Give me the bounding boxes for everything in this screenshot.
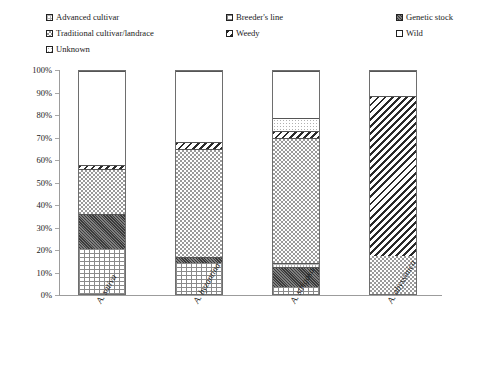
bar-segment-wild bbox=[79, 71, 125, 165]
bar-segment-wild bbox=[370, 71, 416, 96]
bar-segment-traditional bbox=[176, 149, 222, 257]
bar-segment-unknown bbox=[273, 118, 319, 131]
bar-segment-weedy bbox=[176, 142, 222, 149]
bar-segment-wild bbox=[176, 71, 222, 142]
y-axis-tick-label: 100% bbox=[14, 65, 52, 75]
y-axis-tick-label: 30% bbox=[14, 223, 52, 233]
bar-segment-traditional bbox=[79, 169, 125, 214]
y-axis-tick-mark bbox=[55, 273, 59, 274]
bar-segment-weedy bbox=[273, 131, 319, 138]
y-axis-tick-mark bbox=[55, 115, 59, 116]
y-axis-tick-label: 0% bbox=[14, 290, 52, 300]
y-axis-tick-label: 90% bbox=[14, 88, 52, 98]
y-axis-tick-mark bbox=[55, 183, 59, 184]
bar-segment-genetic bbox=[79, 214, 125, 250]
chart-plot-area: 100%90%80%70%60%50%40%30%20%10%0% A. sat… bbox=[0, 0, 478, 369]
y-axis-tick-mark bbox=[55, 93, 59, 94]
bar-segment-traditional bbox=[273, 138, 319, 263]
y-axis-tick-mark bbox=[55, 250, 59, 251]
y-axis-tick-label: 40% bbox=[14, 200, 52, 210]
y-axis-tick-label: 60% bbox=[14, 155, 52, 165]
y-axis-tick-mark bbox=[55, 295, 59, 296]
y-axis-tick-mark bbox=[55, 205, 59, 206]
y-axis-tick-label: 80% bbox=[14, 110, 52, 120]
bar-a-byzantina bbox=[175, 70, 223, 295]
y-axis-tick-label: 70% bbox=[14, 133, 52, 143]
bar-a-strigosa bbox=[272, 70, 320, 295]
y-axis-tick-mark bbox=[55, 160, 59, 161]
bar-a-sativa bbox=[78, 70, 126, 295]
y-axis-tick-label: 50% bbox=[14, 178, 52, 188]
bar-segment-wild bbox=[273, 71, 319, 118]
y-axis-labels: 100%90%80%70%60%50%40%30%20%10%0% bbox=[14, 64, 52, 295]
x-axis-line bbox=[59, 295, 442, 296]
bar-segment-weedy bbox=[370, 96, 416, 257]
y-axis-tick-mark bbox=[55, 70, 59, 71]
y-axis-line bbox=[59, 70, 60, 295]
y-axis-tick-label: 10% bbox=[14, 268, 52, 278]
y-axis-tick-mark bbox=[55, 138, 59, 139]
y-axis-tick-label: 20% bbox=[14, 245, 52, 255]
y-axis-tick-mark bbox=[55, 228, 59, 229]
